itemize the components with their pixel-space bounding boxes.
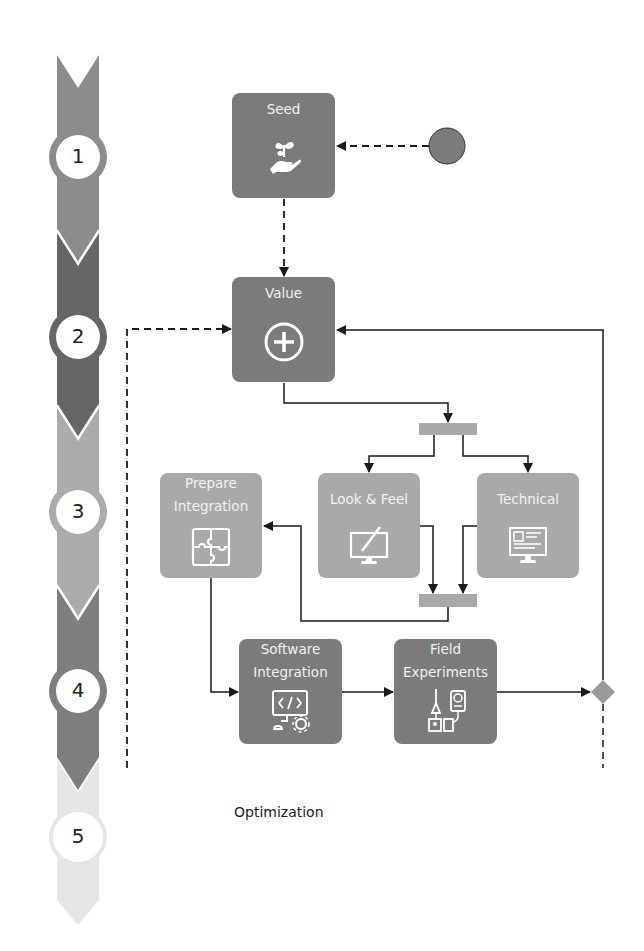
software-integration-label-line1: Software bbox=[239, 639, 342, 658]
technical-node: Technical bbox=[477, 473, 579, 578]
seed-label: Seed bbox=[232, 93, 335, 118]
monitor-document-icon bbox=[507, 525, 549, 565]
step-number-1: 1 bbox=[58, 144, 98, 168]
step-number-3: 3 bbox=[58, 499, 98, 523]
technical-to-join-connector bbox=[463, 526, 477, 593]
step-number-2: 2 bbox=[58, 324, 98, 348]
hand-sprout-icon bbox=[266, 135, 302, 175]
technical-label: Technical bbox=[477, 473, 579, 508]
look-feel-node: Look & Feel bbox=[318, 473, 420, 578]
decision-diamond bbox=[591, 680, 615, 704]
fork-to-look-feel-connector bbox=[369, 435, 434, 472]
fork-bar bbox=[419, 423, 477, 435]
value-label: Value bbox=[232, 277, 335, 302]
puzzle-icon bbox=[191, 527, 231, 567]
prepare-integration-node: Prepare Integration bbox=[160, 473, 262, 578]
monitor-code-gear-icon bbox=[269, 689, 313, 733]
seed-node: Seed bbox=[232, 93, 335, 198]
join-bar bbox=[419, 594, 477, 607]
lab-equipment-icon bbox=[424, 687, 468, 733]
step-number-5: 5 bbox=[58, 824, 98, 848]
value-node: Value bbox=[232, 277, 335, 382]
field-experiments-label-line2: Experiments bbox=[394, 658, 497, 681]
optimization-label: Optimization bbox=[234, 804, 324, 820]
prepare-integration-label-line1: Prepare bbox=[160, 473, 262, 492]
field-experiments-node: Field Experiments bbox=[394, 639, 497, 744]
software-integration-label-line2: Integration bbox=[239, 658, 342, 681]
prepare-integration-label-line2: Integration bbox=[160, 492, 262, 515]
step-number-4: 4 bbox=[58, 678, 98, 702]
monitor-pen-icon bbox=[348, 525, 390, 565]
look-feel-label: Look & Feel bbox=[318, 473, 420, 508]
field-experiments-label-line1: Field bbox=[394, 639, 497, 658]
software-integration-node: Software Integration bbox=[239, 639, 342, 744]
look-feel-to-join-connector bbox=[420, 526, 433, 593]
plus-circle-icon bbox=[263, 321, 305, 363]
start-node bbox=[429, 128, 465, 164]
prepare-to-software-connector bbox=[211, 578, 238, 692]
fork-to-technical-connector bbox=[463, 435, 528, 472]
value-to-fork-connector bbox=[284, 383, 448, 422]
